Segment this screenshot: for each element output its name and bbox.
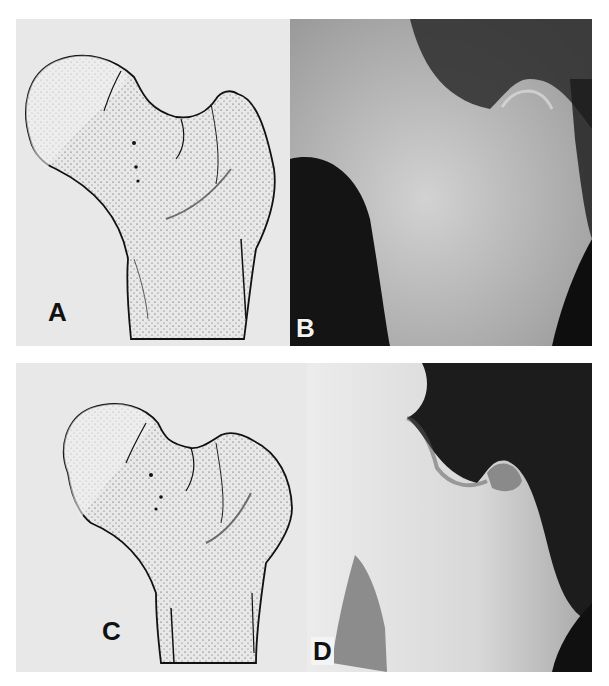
xray-image <box>290 19 592 346</box>
xray-image <box>307 363 592 672</box>
panel-c-drawing: C <box>16 363 307 672</box>
panel-b-radiograph: B <box>290 19 592 346</box>
panel-label-c: C <box>102 618 121 644</box>
panel-label-b: B <box>296 315 315 341</box>
panel-d-radiograph: D <box>307 363 592 672</box>
panel-label-a: A <box>48 299 67 325</box>
panel-label-d: D <box>311 637 334 665</box>
femur-drawing-illustration <box>16 363 307 672</box>
panel-a-drawing: A <box>16 19 290 346</box>
